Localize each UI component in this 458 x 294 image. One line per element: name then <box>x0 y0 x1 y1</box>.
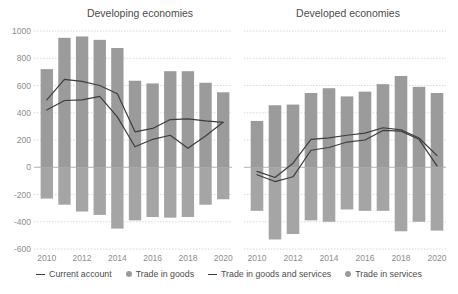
bar-trade-in-services <box>341 167 354 209</box>
bar-trade-in-services <box>58 167 70 204</box>
bar-trade-in-services <box>359 167 372 211</box>
chart-container: Developing economies Developed economies… <box>0 0 458 294</box>
bar-trade-in-goods <box>359 92 372 168</box>
y-axis-tick-label: 1000 <box>0 26 31 36</box>
bar-trade-in-services <box>305 167 318 220</box>
x-axis-tick-label: 2020 <box>428 253 447 263</box>
bar-trade-in-goods <box>41 69 53 167</box>
bar-trade-in-services <box>111 167 123 228</box>
x-axis-tick-label: 2012 <box>284 253 303 263</box>
legend-dot-icon <box>345 271 351 277</box>
bar-trade-in-goods <box>413 87 426 167</box>
bar-trade-in-goods <box>76 36 88 167</box>
x-axis-tick-label: 2010 <box>37 253 56 263</box>
x-axis-tick-label: 2014 <box>320 253 339 263</box>
bar-trade-in-services <box>146 167 158 217</box>
chart-legend: Current accountTrade in goodsTrade in go… <box>0 269 458 279</box>
x-axis-tick-label: 2010 <box>248 253 267 263</box>
x-axis-tick-label: 2018 <box>392 253 411 263</box>
legend-line-icon <box>36 274 45 275</box>
bar-trade-in-goods <box>217 92 229 167</box>
bar-trade-in-services <box>94 167 106 215</box>
legend-label: Trade in services <box>355 269 422 279</box>
bar-trade-in-services <box>76 167 88 211</box>
bar-trade-in-goods <box>199 83 211 167</box>
x-axis-tick-label: 2020 <box>214 253 233 263</box>
legend-dot-icon <box>126 271 132 277</box>
bar-trade-in-services <box>395 167 408 231</box>
bar-trade-in-goods <box>269 105 282 167</box>
y-axis-tick-label: -400 <box>0 217 31 227</box>
bar-trade-in-services <box>217 167 229 199</box>
bar-trade-in-goods <box>323 88 336 167</box>
bar-trade-in-services <box>431 167 444 230</box>
bar-trade-in-goods <box>251 121 264 167</box>
legend-item[interactable]: Trade in goods and services <box>208 269 331 279</box>
bar-trade-in-goods <box>94 40 106 167</box>
y-axis-tick-label: 0 <box>0 162 31 172</box>
bar-trade-in-goods <box>129 81 141 168</box>
bar-trade-in-services <box>251 167 264 211</box>
chart-plot-area <box>0 0 458 294</box>
x-axis-tick-label: 2018 <box>178 253 197 263</box>
x-axis-tick-label: 2016 <box>356 253 375 263</box>
bar-trade-in-services <box>199 167 211 204</box>
bar-trade-in-services <box>164 167 176 217</box>
bar-trade-in-services <box>323 167 336 222</box>
y-axis-tick-label: 400 <box>0 108 31 118</box>
legend-item[interactable]: Current account <box>36 269 112 279</box>
legend-item[interactable]: Trade in goods <box>126 269 194 279</box>
bar-trade-in-services <box>129 167 141 220</box>
y-axis-tick-label: 600 <box>0 81 31 91</box>
bar-trade-in-goods <box>395 76 408 167</box>
legend-label: Current account <box>49 269 112 279</box>
bar-trade-in-goods <box>341 96 354 167</box>
y-axis-tick-label: 800 <box>0 53 31 63</box>
x-axis-tick-label: 2014 <box>108 253 127 263</box>
bar-trade-in-goods <box>111 48 123 167</box>
bar-trade-in-services <box>413 167 426 222</box>
legend-label: Trade in goods and services <box>221 269 331 279</box>
bar-trade-in-goods <box>377 84 390 167</box>
y-axis-tick-label: -200 <box>0 190 31 200</box>
bar-trade-in-services <box>41 167 53 198</box>
legend-label: Trade in goods <box>136 269 194 279</box>
y-axis-tick-label: 200 <box>0 135 31 145</box>
legend-item[interactable]: Trade in services <box>345 269 422 279</box>
bar-trade-in-services <box>182 167 194 217</box>
y-axis-tick-label: -600 <box>0 244 31 254</box>
x-axis-tick-label: 2012 <box>73 253 92 263</box>
bar-trade-in-goods <box>146 83 158 167</box>
bar-trade-in-services <box>377 167 390 211</box>
x-axis-tick-label: 2016 <box>143 253 162 263</box>
legend-line-icon <box>208 274 217 275</box>
bar-trade-in-services <box>269 167 282 239</box>
